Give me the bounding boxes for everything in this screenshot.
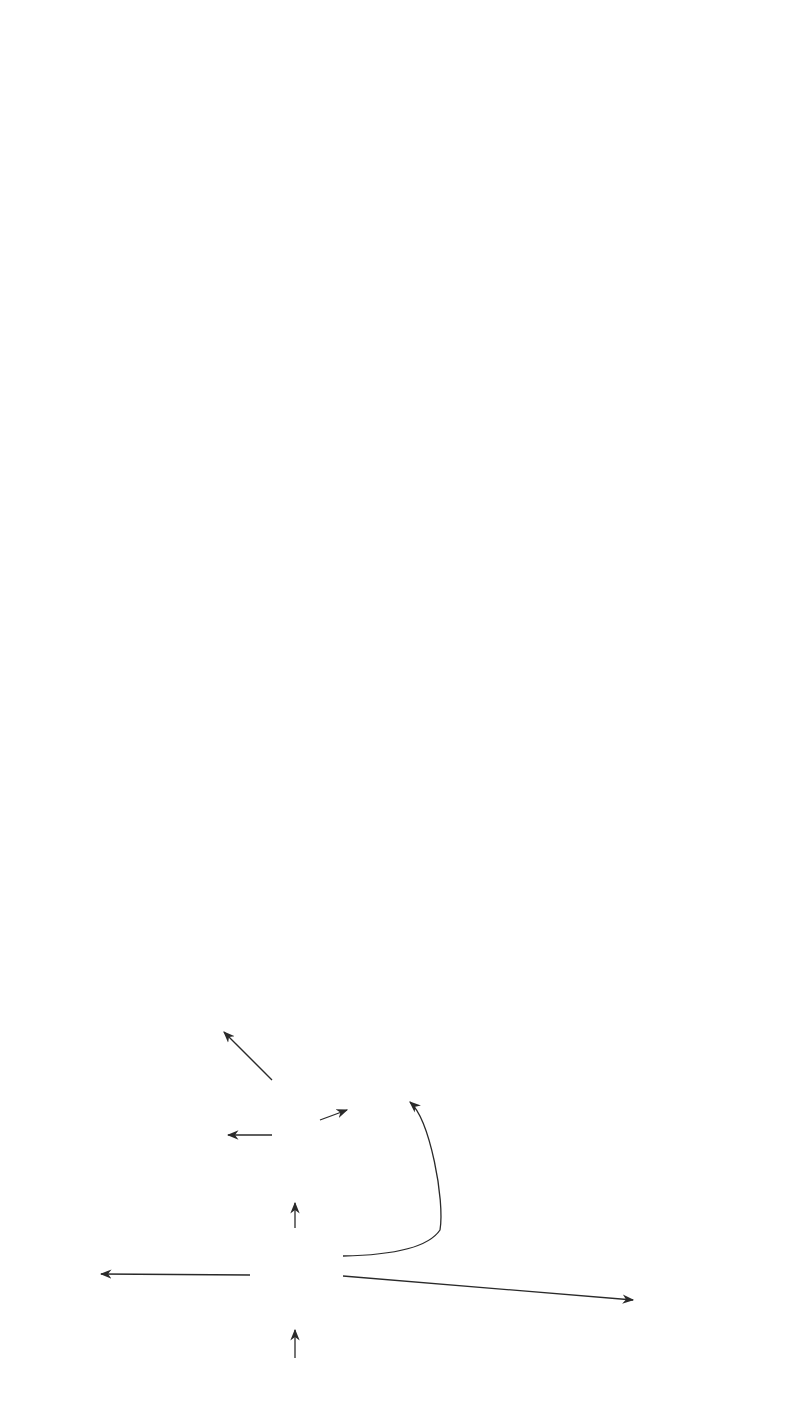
edge-ia-no-sig-harm — [224, 1032, 272, 1080]
edges — [101, 1032, 633, 1358]
child-protection-flowchart — [0, 0, 799, 1424]
edge-referral-referral-out — [101, 1274, 250, 1275]
edge-ia-possible-sig-harm — [320, 1110, 347, 1120]
edge-referral-suspected-crime — [343, 1102, 441, 1256]
edge-referral-nfa — [343, 1276, 633, 1300]
